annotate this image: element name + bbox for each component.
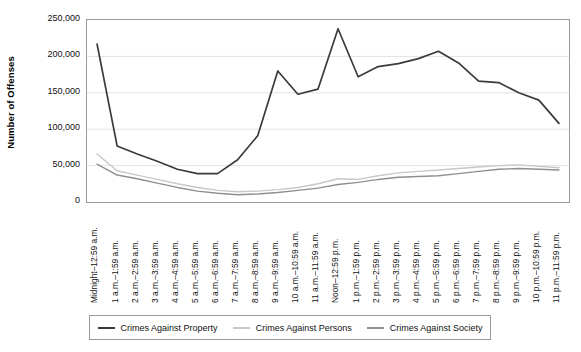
y-tick-label: 0 xyxy=(18,196,80,205)
x-tick-label: 4 p.m.–4:59 p.m. xyxy=(411,203,421,303)
y-axis-tick-labels: 250,000200,000150,000100,00050,0000 xyxy=(12,0,80,210)
legend-item[interactable]: Crimes Against Property xyxy=(96,323,220,333)
x-tick-label: 7 p.m.–7:59 p.m. xyxy=(471,203,481,303)
plot-area xyxy=(86,19,570,203)
series-line xyxy=(97,164,559,195)
x-tick-label: 8 p.m.–8:59 p.m. xyxy=(491,203,501,303)
x-tick-label: 10 a.m.–10:59 a.m. xyxy=(290,203,300,303)
x-axis-tick-labels: Midnight–12:59 a.m.1 a.m.–1:59 a.m.2 a.m… xyxy=(86,203,570,303)
x-tick-label: 10 p.m.–10:59 p.m. xyxy=(531,203,541,303)
x-tick-label: 5 p.m.–5:59 p.m. xyxy=(431,203,441,303)
x-tick-label: 9 p.m.–9:59 p.m. xyxy=(511,203,521,303)
series-line xyxy=(97,29,559,174)
chart-legend: Crimes Against PropertyCrimes Against Pe… xyxy=(89,315,491,340)
x-tick-label: 9 a.m.–9:59 a.m. xyxy=(270,203,280,303)
legend-item[interactable]: Crimes Against Society xyxy=(365,323,485,333)
legend-item[interactable]: Crimes Against Persons xyxy=(231,323,354,333)
x-tick-label: 1 p.m.–1:59 p.m. xyxy=(351,203,361,303)
legend-label: Crimes Against Property xyxy=(121,323,218,333)
x-tick-label: 3 a.m.–3:59 a.m. xyxy=(150,203,160,303)
x-tick-label: 11 p.m.–11:59 p.m. xyxy=(551,203,561,303)
x-tick-label: 2 a.m.–2:59 a.m. xyxy=(130,203,140,303)
legend-label: Crimes Against Persons xyxy=(256,323,352,333)
plot-svg xyxy=(87,20,569,202)
y-tick-label: 100,000 xyxy=(18,123,80,132)
x-tick-label: 3 p.m.–3:59 p.m. xyxy=(391,203,401,303)
line-chart: Number of Offenses 250,000200,000150,000… xyxy=(0,0,581,352)
x-tick-label: Noon–12:59 p.m. xyxy=(330,203,340,303)
x-tick-label: 2 p.m.–2:59 p.m. xyxy=(371,203,381,303)
legend-line-swatch xyxy=(98,327,115,329)
y-tick-label: 150,000 xyxy=(18,87,80,96)
x-tick-label: 6 a.m.–6:59 a.m. xyxy=(210,203,220,303)
x-tick-label: 7 a.m.–7:59 a.m. xyxy=(230,203,240,303)
x-tick-label: 11 a.m.–11:59 a.m. xyxy=(310,203,320,303)
x-tick-label: 6 p.m.–6:59 p.m. xyxy=(451,203,461,303)
y-tick-label: 200,000 xyxy=(18,50,80,59)
y-tick-label: 50,000 xyxy=(18,160,80,169)
y-tick-label: 250,000 xyxy=(18,14,80,23)
x-tick-label: 4 a.m.–4:59 a.m. xyxy=(170,203,180,303)
x-tick-label: 1 a.m.–1:59 a.m. xyxy=(110,203,120,303)
x-tick-label: 5 a.m.–5:59 a.m. xyxy=(190,203,200,303)
x-tick-label: Midnight–12:59 a.m. xyxy=(89,203,99,303)
legend-line-swatch xyxy=(367,327,384,329)
legend-line-swatch xyxy=(233,327,250,329)
x-tick-label: 8 a.m.–8:59 a.m. xyxy=(250,203,260,303)
legend-label: Crimes Against Society xyxy=(390,323,483,333)
